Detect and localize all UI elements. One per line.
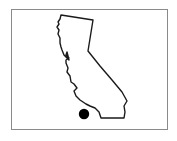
california-outline — [57, 15, 127, 118]
california-map — [0, 0, 177, 141]
location-marker-dot — [79, 109, 89, 119]
